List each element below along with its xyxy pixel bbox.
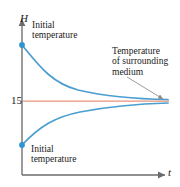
x-axis-label: t	[168, 167, 171, 179]
figure-canvas	[0, 0, 180, 187]
surrounding-medium-label: Temperature of surrounding medium	[112, 46, 168, 77]
warming-curve	[22, 103, 168, 145]
y-axis-label: H	[20, 13, 28, 25]
initial-temperature-bottom-label: Initial temperature	[31, 144, 76, 165]
initial-temperature-top-marker	[19, 42, 25, 48]
cooling-curve-figure: H t 15 Initial temperature Temperature o…	[0, 0, 180, 187]
surrounding-medium-pointer-icon	[127, 77, 163, 99]
initial-temperature-top-label: Initial temperature	[32, 20, 77, 41]
y-tick-label-15: 15	[2, 95, 22, 107]
initial-temperature-bottom-marker	[19, 142, 25, 148]
